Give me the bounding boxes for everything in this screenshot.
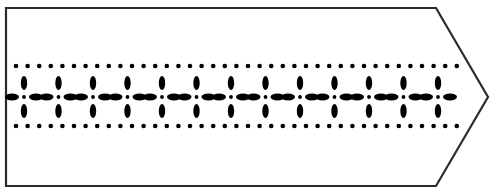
- border-dot: [246, 124, 251, 129]
- border-dot: [281, 124, 286, 129]
- border-dot: [420, 124, 425, 129]
- border-dot: [72, 64, 77, 69]
- border-dot: [211, 64, 216, 69]
- border-dot: [339, 64, 344, 69]
- border-dot: [37, 64, 42, 69]
- flower-center-dot: [160, 95, 164, 99]
- border-dot: [408, 64, 413, 69]
- flower-petal-bottom: [124, 104, 130, 118]
- border-dot: [281, 64, 286, 69]
- flower-petal-bottom: [90, 104, 96, 118]
- flower-petal-top: [297, 76, 303, 90]
- flower-petal-top: [21, 76, 27, 90]
- flower-center-dot: [367, 95, 371, 99]
- flower-petal-left: [40, 94, 54, 101]
- border-dot: [257, 124, 262, 129]
- border-dot: [95, 64, 100, 69]
- flower-center-dot: [195, 95, 199, 99]
- flower-petal-left: [247, 94, 261, 101]
- flower-petal-top: [124, 76, 130, 90]
- border-dot: [83, 124, 88, 129]
- border-dot: [95, 124, 100, 129]
- flower-petal-left: [143, 94, 157, 101]
- border-dot: [269, 64, 274, 69]
- flower-center-dot: [229, 95, 233, 99]
- border-dot: [37, 124, 42, 129]
- canvas: [0, 0, 493, 196]
- border-dot: [60, 64, 65, 69]
- border-dot: [165, 124, 170, 129]
- border-dot: [246, 64, 251, 69]
- flower-petal-top: [400, 76, 406, 90]
- flower-petal-top: [228, 76, 234, 90]
- border-dot: [49, 64, 54, 69]
- border-dot: [292, 124, 297, 129]
- border-dot: [292, 64, 297, 69]
- border-dot: [130, 124, 135, 129]
- border-dot: [339, 124, 344, 129]
- flower-petal-left: [316, 94, 330, 101]
- border-dot: [153, 124, 158, 129]
- border-dot: [234, 124, 239, 129]
- border-dot: [199, 124, 204, 129]
- border-dot: [443, 64, 448, 69]
- border-dot: [176, 64, 181, 69]
- flower-petal-top: [193, 76, 199, 90]
- border-dot: [431, 64, 436, 69]
- border-dot: [455, 64, 460, 69]
- flower-center-dot: [333, 95, 337, 99]
- border-dot: [315, 64, 320, 69]
- flower-petal-top: [159, 76, 165, 90]
- decorative-arrow-banner: [0, 0, 493, 196]
- flower-petal-top: [90, 76, 96, 90]
- border-dot: [350, 124, 355, 129]
- border-dot: [362, 64, 367, 69]
- flower-petal-bottom: [159, 104, 165, 118]
- flower-petal-left: [212, 94, 226, 101]
- flower-petal-left: [385, 94, 399, 101]
- border-dot: [72, 124, 77, 129]
- border-dot: [118, 124, 123, 129]
- flower-petal-bottom: [331, 104, 337, 118]
- border-dot: [431, 124, 436, 129]
- border-dot: [25, 64, 30, 69]
- flower-petal-bottom: [55, 104, 61, 118]
- flower-petal-bottom: [262, 104, 268, 118]
- flower-center-dot: [22, 95, 26, 99]
- flower-center-dot: [264, 95, 268, 99]
- flower-petal-left: [74, 94, 88, 101]
- border-dot: [408, 124, 413, 129]
- flower-petal-bottom: [366, 104, 372, 118]
- border-dot: [315, 124, 320, 129]
- border-dot: [327, 64, 332, 69]
- flower-petal-bottom: [400, 104, 406, 118]
- flower-petal-left: [419, 94, 433, 101]
- flower-center-dot: [126, 95, 130, 99]
- flower-petal-top: [366, 76, 372, 90]
- flower-petal-left: [350, 94, 364, 101]
- border-dot: [397, 124, 402, 129]
- border-dot: [373, 64, 378, 69]
- flower-center-dot: [91, 95, 95, 99]
- flower-petal-right: [443, 94, 457, 101]
- border-dot: [176, 124, 181, 129]
- flower-center-dot: [298, 95, 302, 99]
- border-dot: [211, 124, 216, 129]
- border-dot: [304, 124, 309, 129]
- flower-petal-left: [281, 94, 295, 101]
- border-dot: [107, 64, 112, 69]
- flower-petal-bottom: [193, 104, 199, 118]
- flower-petal-top: [55, 76, 61, 90]
- flower-center-dot: [57, 95, 61, 99]
- border-dot: [153, 64, 158, 69]
- border-dot: [83, 64, 88, 69]
- border-dot: [420, 64, 425, 69]
- border-dot: [141, 124, 146, 129]
- flower-petal-left: [109, 94, 123, 101]
- flower-petal-left: [5, 94, 19, 101]
- border-dot: [257, 64, 262, 69]
- border-dot: [14, 64, 19, 69]
- border-dot: [373, 124, 378, 129]
- flower-center-dot: [402, 95, 406, 99]
- border-dot: [188, 64, 193, 69]
